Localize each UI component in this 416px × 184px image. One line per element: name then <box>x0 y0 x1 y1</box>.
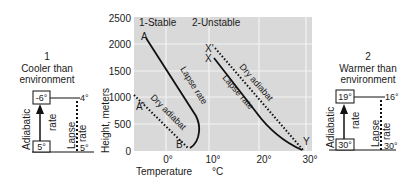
x-tick-labels: 0° 10° 20° 30° <box>163 154 317 165</box>
adiabatic-label: Adiabatic <box>21 109 32 150</box>
x-axis-unit: °C <box>212 166 223 177</box>
y-tick: 1500 <box>109 66 132 77</box>
right-inset: 2 Warmer than environment 19° 30° 16° 30… <box>325 51 399 151</box>
x-tick: 0° <box>163 154 173 165</box>
x-tick: 30° <box>302 154 317 165</box>
bottom-parcel-temp: 5° <box>37 142 46 152</box>
right-inset-title-1: Warmer than <box>339 63 396 74</box>
right-inset-title-2: environment <box>340 74 395 85</box>
y-tick: 0 <box>125 146 131 157</box>
legend-stable: 1-Stable <box>139 17 177 28</box>
top-parcel-temp: -6° <box>36 93 48 103</box>
top-parcel-temp: 19° <box>338 92 352 102</box>
rate-label: rate <box>47 113 58 131</box>
env-bottom-temp: 5° <box>80 143 89 153</box>
legend-unstable: 2-Unstable <box>192 17 241 28</box>
chart: 2500 2000 1500 1000 500 0 Height, meters… <box>100 13 318 177</box>
lapse-label: Lapse <box>370 119 381 147</box>
left-inset-title-1: Cooler than <box>21 63 73 74</box>
y-tick: 2000 <box>109 39 132 50</box>
rate-label: rate <box>350 111 361 129</box>
bottom-parcel-temp: 30° <box>338 140 352 150</box>
label-Y: Y <box>303 136 310 147</box>
left-inset: 1 Cooler than environment -6° 5° 4° 5° A… <box>19 51 94 153</box>
lapse-rate-label: rate <box>381 122 392 140</box>
right-inset-number: 2 <box>365 51 371 62</box>
y-tick: 1000 <box>109 92 132 103</box>
arrow-up-icon <box>340 104 348 114</box>
x-axis-label: Temperature <box>136 166 193 177</box>
label-A-prime: A' <box>136 101 145 112</box>
left-inset-number: 1 <box>44 51 50 62</box>
env-bottom-temp: 30° <box>384 141 398 151</box>
lapse-rate-label: rate <box>77 124 88 142</box>
label-X: X <box>205 53 212 64</box>
stability-diagram: 1 Cooler than environment -6° 5° 4° 5° A… <box>0 0 416 184</box>
lapse-label: Lapse <box>66 121 77 149</box>
y-tick-labels: 2500 2000 1500 1000 500 0 <box>109 13 132 157</box>
y-tick: 500 <box>114 119 131 130</box>
env-top-temp: 16° <box>385 92 399 102</box>
env-top-temp: 4° <box>80 93 89 103</box>
arrow-up-icon <box>36 104 44 114</box>
label-A: A <box>141 31 148 42</box>
left-inset-title-2: environment <box>19 74 74 85</box>
x-tick: 20° <box>256 154 271 165</box>
y-axis-label: Height, meters <box>100 88 111 153</box>
adiabatic-label: Adiabatic <box>325 107 336 148</box>
y-tick: 2500 <box>109 13 132 24</box>
x-tick: 10° <box>205 154 220 165</box>
